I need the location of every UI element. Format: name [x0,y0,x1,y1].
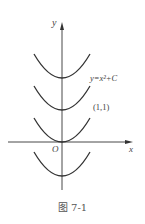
origin-label: O [52,145,59,154]
curve-equation-label: y=x²+C [90,74,117,83]
y-axis-arrow-icon [60,22,64,30]
integral-curves-diagram [0,0,145,224]
point-label: (1,1) [93,103,109,112]
x-axis-label: x [129,145,133,154]
figure-caption: 图 7-1 [0,199,145,214]
y-axis-label: y [52,18,56,28]
